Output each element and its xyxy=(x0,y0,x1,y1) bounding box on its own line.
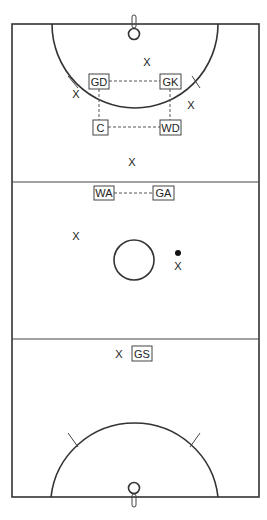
centre-circle xyxy=(114,240,154,280)
ball-icon xyxy=(175,250,181,256)
bottom-goal-post-icon xyxy=(129,483,140,508)
top-goal-post-icon xyxy=(129,15,140,40)
opponent-mark: X xyxy=(72,88,80,100)
opponent-mark: X xyxy=(115,348,123,360)
opponent-mark: X xyxy=(72,230,80,242)
top-arc-tick-left xyxy=(68,76,78,88)
opponent-mark: X xyxy=(143,56,151,68)
bottom-shooting-circle xyxy=(51,423,218,497)
position-label: GK xyxy=(163,76,180,88)
position-gs: GS xyxy=(132,346,152,361)
bottom-arc-tick-left xyxy=(68,433,78,447)
position-label: GS xyxy=(134,348,150,360)
court-boundary xyxy=(12,24,259,497)
position-gd: GD xyxy=(89,74,109,89)
position-label: GA xyxy=(156,187,173,199)
position-label: C xyxy=(97,122,105,134)
opponent-mark: X xyxy=(187,99,195,111)
opponent-mark: X xyxy=(128,156,136,168)
position-gk: GK xyxy=(160,74,181,89)
position-wa: WA xyxy=(94,186,114,200)
position-label: GD xyxy=(91,76,108,88)
position-label: WD xyxy=(161,122,179,134)
netball-court: GD GK C WD WA GA GS X X X X X X X xyxy=(0,0,267,520)
position-label: WA xyxy=(95,187,113,199)
position-wd: WD xyxy=(160,120,181,135)
bottom-arc-tick-right xyxy=(190,433,200,447)
position-c: C xyxy=(93,120,108,135)
opponent-mark: X xyxy=(174,260,182,272)
position-ga: GA xyxy=(153,186,174,200)
